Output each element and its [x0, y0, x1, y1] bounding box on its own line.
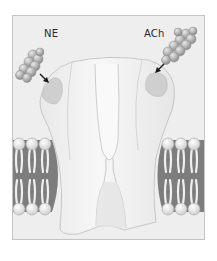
receptor-illustration	[0, 0, 217, 261]
receptor-diagram: NE ACh	[0, 0, 217, 261]
ach-molecule	[162, 27, 198, 65]
ne-label: NE	[44, 28, 58, 39]
ach-binding-site	[146, 73, 168, 97]
lipid-bilayer-left	[13, 138, 58, 215]
ne-molecule	[16, 48, 45, 83]
lipid-bilayer-right	[158, 138, 205, 215]
receptor-protein	[40, 57, 174, 234]
ne-binding-site	[42, 78, 62, 104]
ach-label: ACh	[144, 28, 165, 39]
